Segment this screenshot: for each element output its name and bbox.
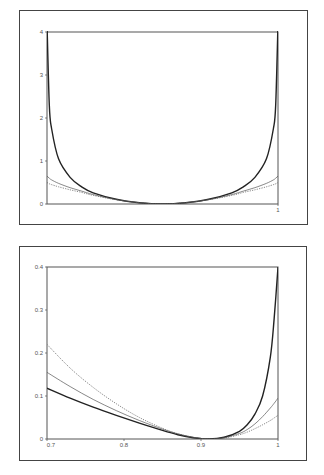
x-tick-label: 0.9 xyxy=(197,442,206,448)
plot-area-border xyxy=(47,267,278,439)
x-tick-label: 0.7 xyxy=(47,442,56,448)
x-tick-label: 0.8 xyxy=(120,442,129,448)
series-line-thick-solid xyxy=(47,267,278,439)
y-tick-label: 0.2 xyxy=(35,350,44,356)
axes: 00.10.20.30.40.70.80.91 xyxy=(35,264,281,448)
bottom-chart-plot: 00.10.20.30.40.70.80.91 xyxy=(0,0,324,475)
y-tick-label: 0.4 xyxy=(35,264,44,270)
y-tick-label: 0.1 xyxy=(35,393,44,399)
series-line-dotted xyxy=(47,344,278,439)
series-group xyxy=(47,267,278,439)
x-tick-label: 1 xyxy=(276,442,280,448)
y-tick-label: 0.3 xyxy=(35,307,44,313)
y-tick-label: 0 xyxy=(40,436,44,442)
